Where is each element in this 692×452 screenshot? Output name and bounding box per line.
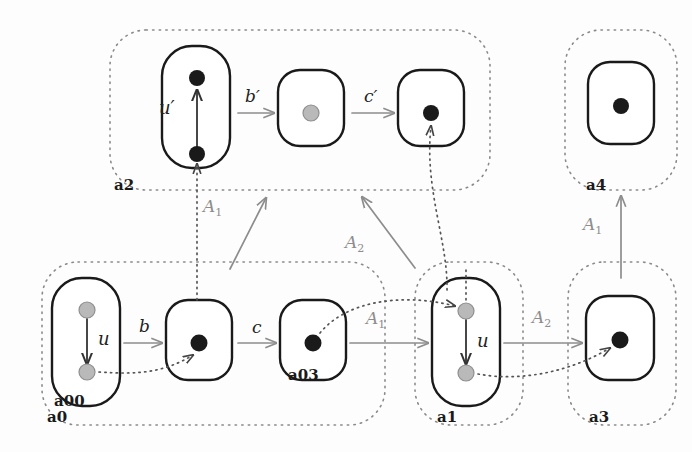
nat-label-A1-middle-base: A <box>366 308 378 328</box>
nat-label-A1-diagonal-base: A <box>203 196 215 216</box>
node-gray-a00-top <box>79 302 95 318</box>
group-label-a4: a4 <box>586 176 606 194</box>
nat-label-A1-right-base: A <box>583 214 595 234</box>
nat-label-A1-middle-sub: 1 <box>378 318 385 331</box>
dotted-arrow-a1-to-a2-right <box>430 126 447 290</box>
morphism-label-c-prime: c′ <box>364 86 377 106</box>
node-black-a02 <box>191 335 208 352</box>
object-box-a00 <box>52 278 120 406</box>
group-label-a0: a0 <box>47 408 67 426</box>
object-label-a03: a03 <box>288 366 319 384</box>
arrow-A1-diagonal <box>230 198 266 269</box>
nat-label-A2-diagonal: A2 <box>345 232 364 255</box>
nat-label-A1-diagonal-sub: 1 <box>215 206 222 219</box>
object-label-a00: a00 <box>54 392 85 410</box>
group-label-a2: a2 <box>114 176 134 194</box>
node-gray-a00-bottom <box>79 364 95 380</box>
group-boundaries <box>42 30 677 425</box>
node-gray-a2-middle <box>303 105 319 121</box>
morphism-label-b: b <box>139 316 150 336</box>
morphism-label-b-prime: b′ <box>245 86 260 106</box>
object-boxes <box>52 46 654 406</box>
morphism-label-c: c <box>252 317 262 337</box>
morphism-label-u-prime: u′ <box>159 97 175 118</box>
group-label-a1: a1 <box>437 408 457 426</box>
node-black-a2-bottom <box>189 146 205 162</box>
diagram-canvas: a2 a4 a0 a1 a3 a00 a03 u′ b′ c′ u b c u … <box>0 0 692 452</box>
nat-label-A2-middle-base: A <box>532 307 544 327</box>
morphism-label-u-a00: u <box>98 328 110 349</box>
group-label-a3: a3 <box>589 408 609 426</box>
node-black-a4 <box>613 98 629 114</box>
node-black-a2-right <box>423 105 439 121</box>
nat-label-A2-middle-sub: 2 <box>544 317 551 330</box>
nat-label-A2-middle: A2 <box>532 307 551 330</box>
node-black-a03 <box>305 335 322 352</box>
nat-label-A1-middle: A1 <box>366 308 385 331</box>
arrow-A2-diagonal <box>362 197 415 268</box>
node-black-a2-top <box>189 70 205 86</box>
nat-label-A2-diagonal-sub: 2 <box>357 242 364 255</box>
node-gray-a1-top <box>458 303 474 319</box>
nat-label-A1-right: A1 <box>583 214 602 237</box>
node-black-a3 <box>612 332 629 349</box>
nat-label-A1-diagonal: A1 <box>203 196 222 219</box>
nat-label-A1-right-sub: 1 <box>595 224 602 237</box>
nat-label-A2-diagonal-base: A <box>345 232 357 252</box>
node-gray-a1-bottom <box>458 365 474 381</box>
morphism-label-u-a1: u <box>477 330 489 351</box>
